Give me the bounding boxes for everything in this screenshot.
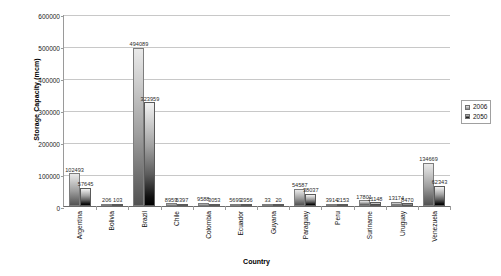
x-axis-category-cell: Guyana bbox=[257, 211, 289, 257]
y-axis-tick-label: 500000 bbox=[38, 45, 60, 52]
x-axis-tick-mark bbox=[257, 206, 258, 210]
y-axis-tick-label: 600000 bbox=[38, 13, 60, 20]
plot-area: 0100000200000300000400000500000600000 10… bbox=[63, 15, 450, 207]
bar-slot: 38037 bbox=[305, 15, 316, 206]
x-axis-label-brazil: Brazil bbox=[140, 211, 147, 228]
bar-value-label: 103 bbox=[113, 198, 122, 204]
bar-argentina-2050: 57645 bbox=[80, 188, 91, 206]
bar-slot: 57645 bbox=[80, 15, 91, 206]
x-axis-label-chile: Chile bbox=[172, 211, 179, 226]
y-axis-tick-label: 300000 bbox=[38, 109, 60, 116]
bar-value-label: 3053 bbox=[208, 198, 220, 204]
legend-label: 2050 bbox=[473, 114, 487, 121]
bar-chile-2050: 5397 bbox=[177, 204, 188, 206]
bar-value-label: 62343 bbox=[432, 180, 448, 186]
bar-slot: 134669 bbox=[423, 15, 434, 206]
bar-value-label: 5397 bbox=[176, 198, 188, 204]
bar-slot: 11148 bbox=[370, 15, 381, 206]
legend-item-2050[interactable]: 2050 bbox=[465, 114, 487, 121]
x-axis-label-guyana: Guyana bbox=[269, 211, 276, 234]
bar-value-label: 11148 bbox=[368, 197, 383, 203]
bar-slot: 13174 bbox=[391, 15, 402, 206]
bar-suriname-2050: 11148 bbox=[370, 202, 381, 206]
bar-value-label: 33 bbox=[264, 198, 270, 204]
y-axis-tick-label: 0 bbox=[56, 205, 60, 212]
bar-slot: 33 bbox=[262, 15, 273, 206]
x-axis-category-cell: Paraguay bbox=[289, 211, 321, 257]
bar-ecuador-2006: 5699 bbox=[230, 204, 241, 206]
bar-slot: 8470 bbox=[402, 15, 413, 206]
bars-layer: 1024935764520610349408932395989595397958… bbox=[64, 15, 450, 206]
bar-slot: 2153 bbox=[337, 15, 348, 206]
bar-group: 13466962343 bbox=[418, 15, 450, 206]
bar-group: 494089323959 bbox=[128, 15, 160, 206]
x-axis-category-cell: Colombia bbox=[192, 211, 224, 257]
bar-group: 89595397 bbox=[161, 15, 193, 206]
bar-bolivia-2006: 206 bbox=[101, 204, 112, 206]
bar-slot: 494089 bbox=[133, 15, 144, 206]
y-axis-tick-label: 200000 bbox=[38, 141, 60, 148]
x-axis-tick-mark bbox=[225, 206, 226, 210]
bar-value-label: 57645 bbox=[78, 182, 94, 188]
bar-group: 131748470 bbox=[386, 15, 418, 206]
x-axis-title: Country bbox=[63, 258, 450, 265]
bar-value-label: 2153 bbox=[337, 198, 349, 204]
x-axis-category-cell: Ecuador bbox=[224, 211, 256, 257]
bar-slot: 206 bbox=[101, 15, 112, 206]
x-axis-category-cell: Brazil bbox=[128, 211, 160, 257]
legend-swatch-icon bbox=[465, 105, 470, 110]
storage-capacity-bar-chart: Storage Capacity (mcm) 01000002000003000… bbox=[0, 0, 501, 276]
bar-value-label: 38037 bbox=[303, 188, 319, 194]
bar-slot: 5397 bbox=[177, 15, 188, 206]
bar-guyana-2006: 33 bbox=[262, 204, 273, 206]
bar-slot: 8959 bbox=[166, 15, 177, 206]
x-axis-label-uruguay: Uruguay bbox=[398, 211, 405, 236]
bar-value-label: 323959 bbox=[141, 97, 160, 103]
x-axis-label-bolivia: Bolivia bbox=[108, 211, 115, 230]
y-axis-title: Storage Capacity (mcm) bbox=[33, 20, 40, 180]
bar-slot: 9588 bbox=[198, 15, 209, 206]
x-axis-tick-mark bbox=[193, 206, 194, 210]
bar-brazil-2050: 323959 bbox=[144, 102, 155, 206]
bar-value-label: 8470 bbox=[401, 198, 413, 204]
x-axis-category-cell: Chile bbox=[160, 211, 192, 257]
x-axis-category-cell: Argentina bbox=[63, 211, 95, 257]
bar-colombia-2050: 3053 bbox=[209, 204, 220, 206]
bar-bolivia-2050: 103 bbox=[112, 204, 123, 206]
x-axis-label-colombia: Colombia bbox=[205, 211, 212, 239]
bar-group: 39142153 bbox=[321, 15, 353, 206]
bar-argentina-2006: 102493 bbox=[69, 173, 80, 206]
y-axis-tick-mark bbox=[61, 208, 64, 209]
legend-label: 2006 bbox=[473, 104, 487, 111]
bar-group: 56992956 bbox=[225, 15, 257, 206]
bar-uruguay-2050: 8470 bbox=[402, 203, 413, 206]
bar-group: 5458738037 bbox=[289, 15, 321, 206]
bar-paraguay-2050: 38037 bbox=[305, 194, 316, 206]
x-axis-label-argentina: Argentina bbox=[76, 211, 83, 239]
bar-slot: 17801 bbox=[359, 15, 370, 206]
x-axis-label-ecuador: Ecuador bbox=[237, 211, 244, 236]
x-axis-label-peru: Peru bbox=[334, 211, 341, 225]
x-axis-tick-mark bbox=[354, 206, 355, 210]
bar-group: 95883053 bbox=[193, 15, 225, 206]
x-axis-label-paraguay: Paraguay bbox=[301, 211, 308, 239]
x-axis-tick-mark bbox=[128, 206, 129, 210]
legend-swatch-icon bbox=[465, 114, 470, 119]
bar-group: 206103 bbox=[96, 15, 128, 206]
bar-slot: 5699 bbox=[230, 15, 241, 206]
bar-venezuela-2050: 62343 bbox=[434, 186, 445, 206]
bar-slot: 2956 bbox=[241, 15, 252, 206]
x-axis-tick-mark bbox=[321, 206, 322, 210]
x-axis-tick-mark bbox=[289, 206, 290, 210]
x-axis-category-cell: Uruguay bbox=[386, 211, 418, 257]
bar-slot: 54587 bbox=[294, 15, 305, 206]
bar-peru-2006: 3914 bbox=[326, 204, 337, 206]
x-axis-label-suriname: Suriname bbox=[366, 211, 373, 239]
x-axis-category-labels: ArgentinaBoliviaBrazilChileColombiaEcuad… bbox=[63, 211, 450, 257]
y-axis-tick-label: 100000 bbox=[38, 173, 60, 180]
legend-item-2006[interactable]: 2006 bbox=[465, 104, 487, 111]
x-axis-tick-mark bbox=[386, 206, 387, 210]
x-axis-category-cell: Bolivia bbox=[95, 211, 127, 257]
x-axis-category-cell: Suriname bbox=[353, 211, 385, 257]
y-axis-tick-label: 400000 bbox=[38, 77, 60, 84]
